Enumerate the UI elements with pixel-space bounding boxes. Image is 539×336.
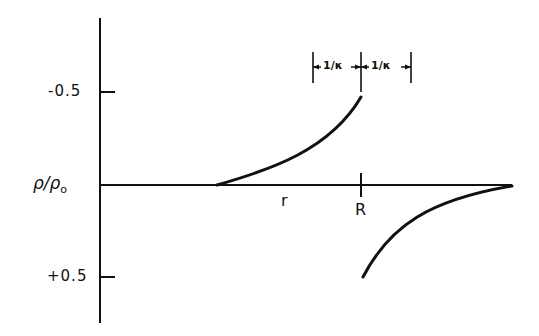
y-axis-label-sub: o [60, 183, 67, 196]
y-axis-label-main: ρ/ρ [33, 173, 60, 193]
curve-inside [217, 97, 361, 185]
curve-outside [363, 186, 512, 277]
y-axis-label: ρ/ρo [33, 173, 67, 196]
arrowhead-icon [313, 65, 319, 70]
y-tick-label-pos: +0.5 [47, 267, 87, 285]
arrowhead-icon [405, 65, 411, 70]
dimension-label-right: 1/κ [371, 59, 391, 72]
R-label: R [355, 200, 366, 219]
r-label: r [281, 191, 288, 210]
arrowhead-icon [355, 65, 361, 70]
y-tick-label-neg: -0.5 [48, 82, 81, 100]
figure-canvas [0, 0, 539, 336]
dimension-label-left: 1/κ [323, 59, 343, 72]
arrowhead-icon [361, 65, 367, 70]
